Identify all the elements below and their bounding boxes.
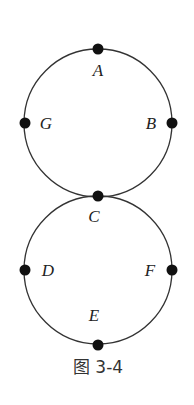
- node-dot: [20, 118, 31, 129]
- node-label: E: [88, 306, 100, 325]
- node-dot: [93, 44, 104, 55]
- diagram-canvas: A B G C D F E 图 3-4: [0, 0, 194, 405]
- figure-caption: 图 3-4: [73, 357, 123, 377]
- node-dot: [93, 191, 104, 202]
- node-dot: [93, 340, 104, 351]
- node-dot: [167, 265, 178, 276]
- node-label: F: [144, 261, 156, 280]
- node-A: A: [92, 44, 104, 81]
- node-dot: [167, 118, 178, 129]
- node-label: C: [88, 207, 100, 226]
- node-dot: [20, 265, 31, 276]
- node-label: D: [41, 261, 55, 280]
- node-label: G: [40, 114, 52, 133]
- node-B: B: [146, 114, 178, 133]
- node-label: A: [92, 61, 104, 80]
- node-F: F: [144, 261, 178, 280]
- node-label: B: [146, 114, 157, 133]
